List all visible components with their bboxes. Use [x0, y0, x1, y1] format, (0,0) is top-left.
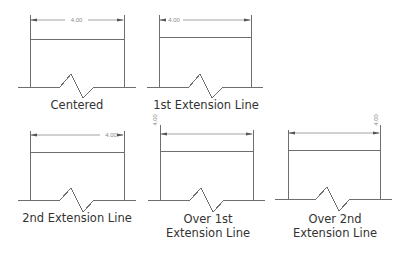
dimension-text: 4.00 [152, 114, 158, 126]
caption-second-extension: 2nd Extension Line [22, 211, 132, 225]
panel-first-extension: 4.00 [147, 15, 263, 98]
dimension-text: 4.00 [373, 114, 379, 126]
panel-over-second-extension: 4.00 [275, 114, 392, 211]
caption-line: 1st Extension Line [153, 98, 259, 112]
dimension-text: 4.00 [71, 17, 83, 23]
caption-centered: Centered [51, 98, 104, 112]
panel-centered: 4.00 [18, 15, 136, 98]
caption-first-extension: 1st Extension Line [153, 98, 259, 112]
dimension-text: 4.00 [168, 17, 180, 23]
caption-line: Extension Line [293, 226, 377, 240]
caption-over-first-extension: Over 1st Extension Line [166, 212, 250, 240]
panel-over-first-extension: 4.00 [148, 114, 265, 212]
dimension-text: 4.00 [105, 132, 117, 138]
caption-line: Over 2nd [293, 212, 377, 226]
caption-line: Extension Line [166, 226, 250, 240]
caption-line: Over 1st [166, 212, 250, 226]
panel-second-extension: 4.00 [18, 131, 136, 212]
caption-line: 2nd Extension Line [22, 211, 132, 225]
caption-line: Centered [51, 98, 104, 112]
caption-over-second-extension: Over 2nd Extension Line [293, 212, 377, 240]
